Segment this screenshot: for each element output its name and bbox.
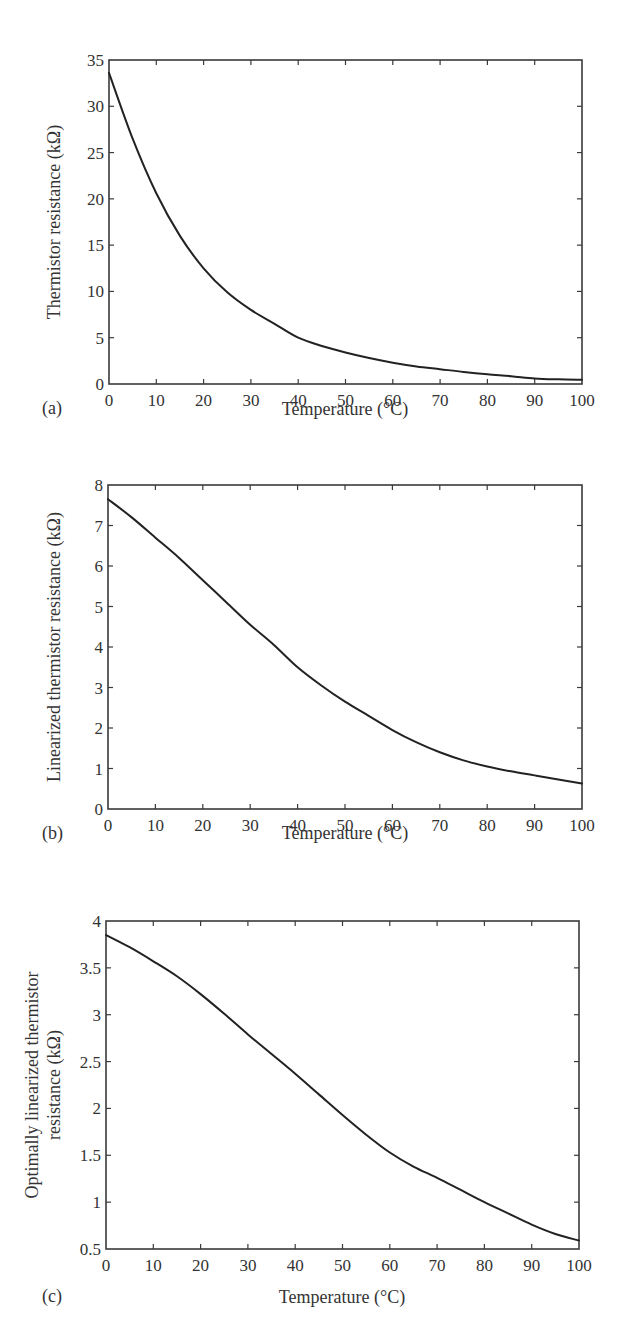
x-tick-label: 90 (526, 816, 543, 835)
chart-a-svg: 010203040506070809010005101520253035 Tem… (0, 0, 634, 440)
x-tick-label: 60 (381, 1256, 398, 1275)
y-tick-label: 2 (95, 719, 104, 738)
chart-a-ylabel: Thermistor resistance (kΩ) (44, 125, 65, 319)
x-tick-label: 50 (334, 1256, 351, 1275)
y-tick-label: 2.5 (80, 1053, 101, 1072)
y-tick-label: 8 (95, 476, 104, 495)
chart-b-ylabel: Linearized thermistor resistance (kΩ) (44, 512, 65, 782)
x-tick-label: 0 (102, 1256, 111, 1275)
x-tick-label: 30 (239, 1256, 256, 1275)
x-tick-label: 30 (242, 391, 259, 410)
y-tick-label: 4 (93, 912, 102, 931)
chart-c-axes (106, 921, 579, 1249)
y-tick-label: 7 (95, 517, 104, 536)
x-tick-label: 80 (479, 816, 496, 835)
y-tick-label: 15 (87, 236, 104, 255)
chart-c-ylabel-line1: Optimally linearized thermistor (22, 972, 42, 1199)
chart-c-panel-tag: (c) (42, 1286, 62, 1307)
y-tick-label: 4 (95, 638, 104, 657)
chart-a-panel-tag: (a) (42, 398, 62, 419)
chart-c-line (106, 935, 579, 1241)
chart-b-axes (108, 485, 582, 809)
y-tick-label: 0.5 (80, 1240, 101, 1259)
chart-c-svg: 01020304050607080901000.511.522.533.54 T… (0, 880, 634, 1342)
chart-panel-c: 01020304050607080901000.511.522.533.54 T… (0, 880, 634, 1342)
chart-panel-a: 010203040506070809010005101520253035 Tem… (0, 0, 634, 440)
y-tick-label: 3 (95, 679, 104, 698)
x-tick-label: 0 (104, 816, 113, 835)
x-tick-label: 80 (476, 1256, 493, 1275)
chart-a-xlabel: Temperature (°C) (282, 399, 408, 420)
x-tick-label: 20 (192, 1256, 209, 1275)
chart-c-ylabel-line2: resistance (kΩ) (44, 1030, 65, 1140)
chart-b-ticks: 0102030405060708090100012345678 (95, 476, 595, 835)
y-tick-label: 1 (95, 760, 104, 779)
chart-panel-b: 0102030405060708090100012345678 Temperat… (0, 430, 634, 870)
y-tick-label: 5 (96, 329, 105, 348)
x-tick-label: 10 (148, 391, 165, 410)
x-tick-label: 40 (287, 1256, 304, 1275)
y-tick-label: 10 (87, 282, 104, 301)
x-tick-label: 30 (242, 816, 259, 835)
x-tick-label: 0 (105, 391, 114, 410)
x-tick-label: 10 (147, 816, 164, 835)
x-tick-label: 90 (526, 391, 543, 410)
y-tick-label: 0 (95, 800, 104, 819)
chart-b-panel-tag: (b) (42, 823, 63, 844)
chart-c-xlabel: Temperature (°C) (279, 1287, 405, 1308)
x-tick-label: 100 (569, 391, 595, 410)
y-tick-label: 6 (95, 557, 104, 576)
chart-b-xlabel: Temperature (°C) (282, 823, 408, 844)
x-tick-label: 10 (145, 1256, 162, 1275)
x-tick-label: 100 (569, 816, 595, 835)
y-tick-label: 3 (93, 1006, 102, 1025)
x-tick-label: 70 (429, 1256, 446, 1275)
chart-b-line (108, 499, 582, 783)
chart-a-ticks: 010203040506070809010005101520253035 (87, 51, 595, 410)
x-tick-label: 100 (566, 1256, 592, 1275)
x-tick-label: 20 (195, 391, 212, 410)
chart-a-line (109, 73, 582, 380)
x-tick-label: 70 (431, 816, 448, 835)
x-tick-label: 90 (523, 1256, 540, 1275)
chart-c-ticks: 01020304050607080901000.511.522.533.54 (80, 912, 592, 1275)
y-tick-label: 3.5 (80, 959, 101, 978)
x-tick-label: 80 (479, 391, 496, 410)
x-tick-label: 70 (432, 391, 449, 410)
y-tick-label: 5 (95, 598, 104, 617)
y-tick-label: 0 (96, 375, 105, 394)
chart-a-axes (109, 60, 582, 384)
y-tick-label: 1 (93, 1193, 102, 1212)
y-tick-label: 25 (87, 144, 104, 163)
chart-b-svg: 0102030405060708090100012345678 Temperat… (0, 430, 634, 870)
x-tick-label: 20 (194, 816, 211, 835)
y-tick-label: 20 (87, 190, 104, 209)
y-tick-label: 2 (93, 1099, 102, 1118)
y-tick-label: 1.5 (80, 1146, 101, 1165)
y-tick-label: 35 (87, 51, 104, 70)
y-tick-label: 30 (87, 97, 104, 116)
